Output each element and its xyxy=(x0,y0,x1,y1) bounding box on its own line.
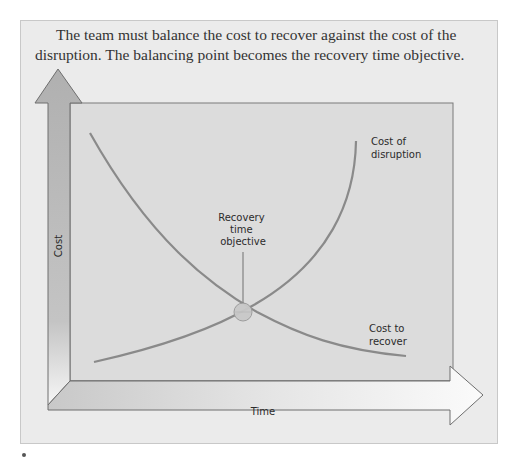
y-axis-label: Cost xyxy=(53,235,64,257)
rto-label-line1: Recovery xyxy=(218,212,264,223)
rto-label-line3: objective xyxy=(220,236,266,247)
page-marker xyxy=(22,453,26,457)
rto-label-line2: time xyxy=(230,224,253,235)
cost-time-diagram: Cost Time Recovery time objective Cost o… xyxy=(0,0,514,464)
x-axis-label: Time xyxy=(250,406,275,417)
